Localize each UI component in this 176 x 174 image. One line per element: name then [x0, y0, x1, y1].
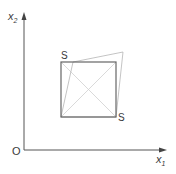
diagram-canvas: x2 x1 O S S — [0, 0, 176, 174]
x-axis-label: x1 — [155, 153, 166, 167]
x-axis-arrow-icon — [159, 148, 167, 153]
corner-label-top-left: S — [61, 50, 68, 61]
y-axis-label: x2 — [7, 10, 18, 24]
origin-label: O — [12, 145, 21, 157]
corner-label-bottom-right: S — [118, 112, 125, 123]
y-axis-arrow-icon — [22, 12, 27, 20]
